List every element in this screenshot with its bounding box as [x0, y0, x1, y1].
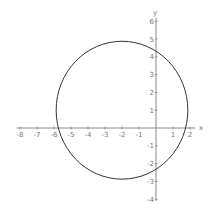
y-tick-label: -2 — [147, 160, 154, 168]
x-tick-label: -1 — [136, 131, 143, 139]
x-tick-label: -8 — [17, 131, 24, 139]
circle-plot: -8-7-6-5-4-3-2-112-4-3-2-1123456 x y — [0, 0, 212, 217]
y-tick-label: 3 — [150, 71, 154, 79]
y-tick-label: 4 — [150, 53, 155, 61]
y-tick-label: -3 — [147, 178, 154, 186]
x-tick-label: -5 — [68, 131, 75, 139]
y-tick-label: 1 — [150, 107, 154, 115]
x-tick-label: 2 — [188, 131, 192, 139]
x-tick-label: 1 — [171, 131, 175, 139]
circle-curve — [56, 41, 188, 179]
axes — [17, 18, 196, 201]
plot-series — [56, 41, 188, 179]
y-tick-label: 6 — [150, 18, 155, 26]
x-axis-label: x — [199, 124, 203, 132]
y-tick-label: 5 — [150, 36, 154, 44]
x-tick-label: -2 — [119, 131, 126, 139]
x-tick-label: -3 — [102, 131, 109, 139]
x-tick-label: -6 — [51, 131, 59, 139]
y-tick-label: -4 — [147, 196, 155, 204]
x-tick-label: -7 — [34, 131, 41, 139]
y-axis-label: y — [153, 9, 157, 17]
ticks: -8-7-6-5-4-3-2-112-4-3-2-1123456 — [17, 18, 193, 204]
y-tick-label: -1 — [147, 142, 154, 150]
x-tick-label: -4 — [85, 131, 93, 139]
y-tick-label: 2 — [150, 89, 154, 97]
